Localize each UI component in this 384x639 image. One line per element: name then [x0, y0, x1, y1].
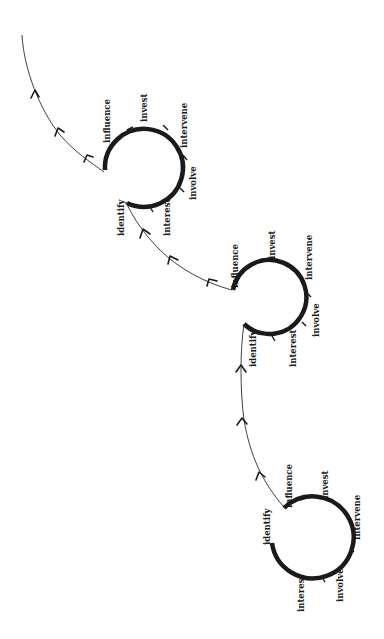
arrow-icon — [272, 336, 275, 341]
loop-3: influence invest intervene involve inter… — [262, 463, 362, 612]
label-intervene: intervene — [352, 494, 362, 540]
label-involve: involve — [311, 303, 321, 337]
label-interest: interest — [162, 199, 172, 236]
spiral-cycle-diagram: influence invest intervene involve inter… — [0, 0, 384, 639]
arrow-icon — [237, 418, 247, 425]
label-interest: interest — [288, 330, 298, 367]
label-invest: invest — [267, 230, 277, 259]
label-involve: involve — [188, 166, 198, 200]
loop-1: influence invest intervene involve inter… — [102, 93, 198, 236]
label-invest: invest — [320, 470, 330, 499]
loop-2: influence invest intervene involve inter… — [230, 230, 321, 367]
tail-connector — [22, 35, 104, 172]
label-interest: interest — [296, 575, 306, 612]
label-influence: influence — [230, 243, 240, 288]
label-intervene: intervene — [179, 102, 189, 148]
label-identify: identify — [262, 507, 272, 545]
arrow-icon — [168, 256, 178, 264]
arrow-icon — [302, 322, 306, 326]
label-invest: invest — [139, 93, 149, 122]
label-involve: involve — [335, 568, 345, 602]
connector-loop2-loop1 — [126, 202, 232, 290]
arrow-icon — [163, 125, 168, 130]
label-identify: identify — [248, 329, 258, 367]
loop-2-arc — [233, 260, 306, 334]
label-influence: influence — [102, 98, 112, 143]
label-identify: identify — [116, 198, 126, 236]
loop-1-arc — [105, 129, 183, 207]
arrow-icon — [180, 188, 184, 192]
label-influence: influence — [284, 463, 294, 508]
label-intervene: intervene — [304, 234, 314, 280]
